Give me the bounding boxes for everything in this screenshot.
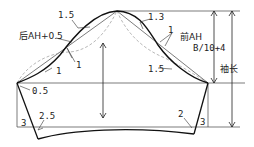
label-cap-height: B/10+4 (193, 43, 226, 53)
label-top-left-ease: 1.5 (58, 10, 74, 20)
label-front-low: 1.5 (148, 64, 164, 74)
label-back-mid-1: 1 (76, 60, 81, 70)
dashed-guides (17, 11, 208, 83)
label-back-ah: 后AH+0.5 (19, 31, 63, 41)
sleeve-cap-curve (17, 11, 208, 83)
label-sleeve-length: 袖长 (220, 63, 238, 74)
label-front-mid-1: 1 (168, 25, 173, 35)
label-front-hem-offset: 2 (178, 109, 183, 119)
label-back-hem-3: 3 (21, 118, 26, 128)
label-back-low-1: 1 (56, 66, 61, 76)
label-front-ah: 前AH (180, 31, 202, 42)
label-front-hem-3: 3 (200, 117, 205, 127)
label-back-underarm: 0.5 (32, 86, 48, 96)
sleeve-pattern-diagram: 1.5 1.3 后AH+0.5 前AH B/10+4 袖长 1 1 1 1.5 … (0, 0, 254, 147)
construction-lines (17, 11, 245, 127)
label-back-hem-offset: 2.5 (39, 111, 55, 121)
label-top-right-ease: 1.3 (148, 12, 164, 22)
